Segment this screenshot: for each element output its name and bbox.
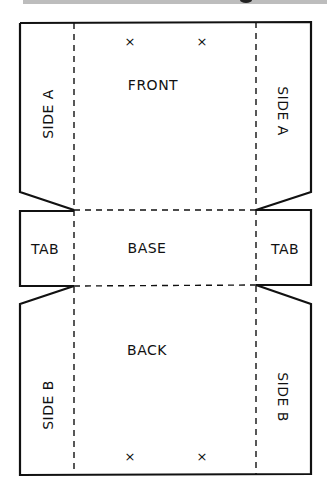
- x-mark-bottom-right: ×: [197, 450, 208, 463]
- x-mark-top-right: ×: [197, 35, 208, 48]
- label-base: BASE: [128, 241, 167, 255]
- fold-base-back: [74, 285, 256, 286]
- label-side-b-right: SIDE B: [276, 372, 290, 422]
- label-side-b-left: SIDE B: [41, 380, 55, 430]
- label-side-a-right: SIDE A: [276, 86, 290, 136]
- label-tab-left: TAB: [31, 242, 59, 256]
- label-tab-right: TAB: [271, 242, 299, 256]
- outline-top-section: [20, 22, 311, 210]
- label-back: BACK: [127, 343, 167, 357]
- label-front: FRONT: [128, 78, 178, 92]
- x-mark-top-left: ×: [125, 35, 136, 48]
- x-mark-bottom-left: ×: [125, 450, 136, 463]
- label-side-a-left: SIDE A: [41, 89, 55, 139]
- outline-bottom-section: [20, 285, 311, 475]
